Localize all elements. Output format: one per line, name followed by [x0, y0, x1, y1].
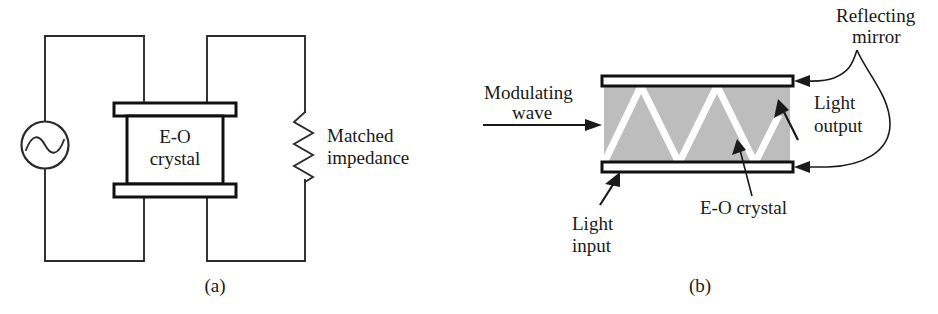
matched-impedance-label-line1: Matched [327, 125, 394, 146]
reflecting-mirror-bottom [602, 162, 793, 172]
reflecting-mirror-label-line1: Reflecting [836, 5, 916, 26]
light-input-arrow-shaft [600, 183, 614, 205]
light-output-label-line1: Light [814, 92, 856, 113]
light-input-arrow [600, 172, 620, 205]
light-input-arrow-head [605, 172, 620, 187]
panel-a-caption: (a) [204, 275, 225, 297]
modulating-wave-label-line2: wave [512, 102, 552, 123]
reflecting-mirror-label-line2: mirror [852, 26, 901, 47]
ac-source-symbol [22, 122, 69, 169]
reflecting-mirror-leader-top [806, 50, 857, 81]
panel-b: Modulating wave Reflecting mirror Light … [483, 5, 916, 297]
figure-svg: E-O crystal Matched impedance (a) [0, 0, 938, 314]
light-input-label-line2: input [572, 235, 612, 256]
reflecting-mirror-top [602, 76, 793, 86]
eo-crystal-label-line1: E-O [159, 126, 191, 147]
panel-b-caption: (b) [689, 275, 711, 297]
modulating-wave-label-line1: Modulating [484, 82, 573, 103]
matched-impedance-label-line2: impedance [327, 147, 409, 168]
light-input-label-line1: Light [572, 213, 614, 234]
panel-a: E-O crystal Matched impedance (a) [22, 36, 410, 297]
figure-root: E-O crystal Matched impedance (a) [0, 0, 938, 314]
electrode-plate-bottom [114, 184, 236, 197]
modulating-wave-arrow-head [585, 119, 602, 131]
reflecting-mirror-arrow-top [794, 75, 810, 87]
electrode-plate-top [114, 103, 236, 116]
light-output-label-line2: output [814, 115, 863, 136]
eo-crystal-label-line2: crystal [150, 148, 201, 169]
reflecting-mirror-arrow-bottom [794, 161, 810, 173]
eo-crystal-label-b: E-O crystal [700, 197, 787, 218]
resistor-matched-impedance [294, 112, 313, 182]
resistor-zigzag-icon [294, 112, 313, 182]
wire-right-top [207, 36, 305, 112]
